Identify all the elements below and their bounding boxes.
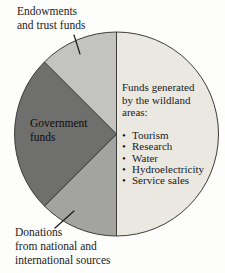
- bullet-icon: •: [122, 141, 132, 152]
- list-item-label: Tourism: [132, 129, 169, 141]
- label-wildland-funds-block: Funds generated by the wildland areas: •…: [122, 81, 204, 187]
- list-item-service-sales: •Service sales: [122, 175, 204, 186]
- wildland-funds-heading: Funds generated by the wildland areas:: [122, 81, 204, 119]
- label-government-funds: Government funds: [30, 117, 87, 145]
- list-item-label: Service sales: [132, 174, 189, 186]
- list-item-label: Water: [132, 152, 158, 164]
- pie-chart-figure: Endowments and trust funds Government fu…: [0, 0, 225, 273]
- wildland-funds-list: •Tourism •Research •Water •Hydroelectric…: [122, 130, 204, 187]
- list-item-label: Research: [132, 140, 172, 152]
- label-donations: Donations from national and internationa…: [15, 226, 110, 267]
- bullet-icon: •: [122, 175, 132, 186]
- label-endowments-and-trust-funds: Endowments and trust funds: [17, 5, 85, 33]
- list-item-label: Hydroelectricity: [132, 163, 204, 175]
